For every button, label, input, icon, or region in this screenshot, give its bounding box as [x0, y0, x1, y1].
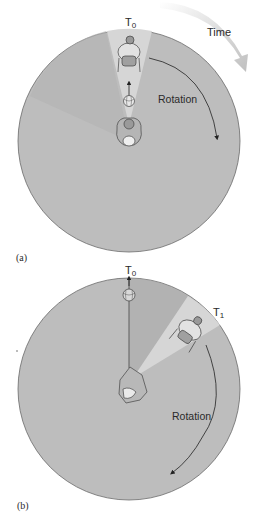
panel-label-a: (a) [16, 252, 27, 264]
ball-icon-b [123, 289, 135, 301]
ball-icon-a [124, 96, 135, 107]
rotation-label-b: Rotation [172, 410, 211, 422]
panel-b: T0 T1 [16, 264, 240, 512]
rotating-frame-diagram: Time T0 R [0, 0, 253, 521]
panel-a: Time T0 R [16, 2, 248, 264]
t0-label-b: T0 [125, 264, 137, 278]
panel-label-b: (b) [17, 500, 29, 512]
t1-label-b: T1 [213, 306, 225, 320]
time-label: Time [207, 26, 231, 38]
thrower-person-a [117, 118, 142, 146]
rotation-label-a: Rotation [158, 93, 197, 105]
stray-dot [16, 350, 18, 352]
t0-label-a: T0 [125, 16, 137, 30]
